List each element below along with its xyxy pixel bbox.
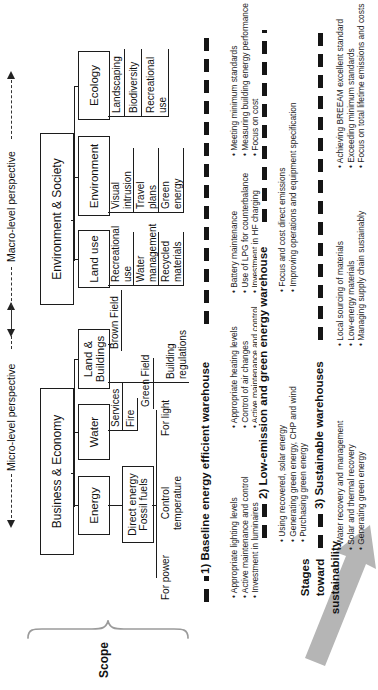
stage1-bullets-heating: Appropriate heating levels Control of ai… xyxy=(229,306,261,428)
stage2-dash-line xyxy=(262,502,267,538)
bullet-line: Exceeding minimum standards xyxy=(346,4,357,168)
bullet-line: Focus on total lifetime emissions and co… xyxy=(356,4,367,168)
stages-label-line: sustainability xyxy=(328,520,343,635)
stages-arrow-label: Stages toward sustainability xyxy=(298,520,343,635)
bullet-line: Purchasing green energy xyxy=(298,386,309,542)
stage2-bullets-emissions: Focus and cost direct emissions Improvin… xyxy=(277,102,298,292)
stage3-bullets-standards: Achieving BREEAM excellent standard Exce… xyxy=(335,4,367,168)
bullet-line: Generating green energy xyxy=(356,421,367,550)
figure-canvas: Micro-level perspective Macro-level pers… xyxy=(0,0,378,690)
stage1-dash-line xyxy=(204,30,209,324)
bullet-line: Solar and thermal recovery xyxy=(346,421,357,550)
stage2-heading: 2) Low-emission and green energy warehou… xyxy=(257,245,270,501)
stage3-bullets-materials: Local sourcing of materials Low-energy m… xyxy=(335,211,367,346)
bullet-line: Generating green energy, CHP and wind xyxy=(288,386,299,542)
rotated-figure-page: Micro-level perspective Macro-level pers… xyxy=(0,0,378,690)
bullet-line: Managing supply chain sustainably xyxy=(356,211,367,346)
stage1-bullets-energy: Appropriate lighting levels Active maint… xyxy=(229,476,261,598)
stage3-dash-line xyxy=(318,30,323,340)
bullet-line: Using recovered, solar energy xyxy=(277,386,288,542)
stage2-dash-line xyxy=(262,30,267,222)
bullet-line: Measuring building energy performance xyxy=(240,3,251,156)
bullet-line: Improving operations and equipment speci… xyxy=(288,102,299,292)
stage1-bullets-standards: Meeting minimum standards Measuring buil… xyxy=(229,3,261,156)
stage3-heading: 3) Sustainable warehouses xyxy=(313,359,326,511)
bullet-line: Battery maintenance xyxy=(229,173,240,293)
bullet-line: Achieving BREEAM excellent standard xyxy=(335,4,346,168)
bullet-line: Local sourcing of materials xyxy=(335,211,346,346)
bullet-line: Active maintenance and control xyxy=(240,476,251,598)
bullet-line: Focus and cost direct emissions xyxy=(277,102,288,292)
stage1-heading: 1) Baseline energy efficient warehouse xyxy=(199,360,212,576)
bullet-line: Appropriate lighting levels xyxy=(229,476,240,598)
stages-label-line: Stages xyxy=(298,520,313,635)
bullet-line: Meeting minimum standards xyxy=(229,3,240,156)
stage2-bullets-energy: Using recovered, solar energy Generating… xyxy=(277,386,309,542)
bullet-line: Focus on cost xyxy=(250,3,261,156)
bullet-line: Control of air changes xyxy=(240,306,251,428)
stages-label-line: toward xyxy=(313,520,328,635)
stage1-bullets-handling: Battery maintenance Use of LPG for count… xyxy=(229,173,261,293)
bullet-line: Appropriate heating levels xyxy=(229,306,240,428)
stage1-dash-line xyxy=(204,576,209,602)
bullet-line: Low-energy materials xyxy=(346,211,357,346)
bullet-line: Use of LPG for counterbalance xyxy=(240,173,251,293)
